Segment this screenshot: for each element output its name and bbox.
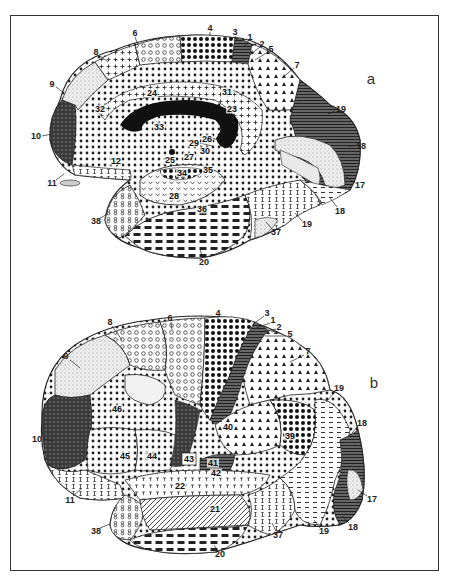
brodmann-area-label: 4 [207, 24, 212, 33]
brodmann-area-label: 1 [247, 33, 252, 42]
brodmann-area-label: 11 [47, 179, 57, 188]
brodmann-area-label: 39 [284, 432, 296, 441]
brodmann-area-label: 35 [202, 166, 214, 175]
brodmann-area-label: 18 [335, 207, 345, 216]
brodmann-area-label: 41 [207, 459, 219, 468]
brodmann-area-label: 6 [132, 29, 137, 38]
brodmann-area-label: 20 [215, 550, 225, 559]
brodmann-area-label: 17 [355, 181, 365, 190]
brodmann-area-label: 3 [232, 28, 237, 37]
brodmann-area-label: 4 [215, 309, 220, 318]
brodmann-area-label: 7 [294, 61, 299, 70]
brodmann-area-label: 33 [153, 123, 165, 132]
brodmann-area-label: 46 [111, 405, 123, 414]
brodmann-area-label: 19 [319, 527, 329, 536]
brodmann-area-label: 17 [367, 495, 377, 504]
brodmann-area-label: 43 [183, 455, 195, 464]
brodmann-area-label: 9 [63, 352, 68, 361]
brodmann-area-label: 23 [226, 105, 238, 114]
panel-b-lateral-view [41, 316, 367, 554]
brodmann-area-label: 34 [176, 169, 188, 178]
brodmann-area-label: 8 [107, 318, 112, 327]
brodmann-area-label: 18 [348, 523, 358, 532]
brodmann-area-label: 31 [221, 88, 233, 97]
brodmann-area-label: 27 [183, 153, 195, 162]
brodmann-area-label: 19 [302, 220, 312, 229]
brodmann-area-label: 38 [91, 217, 101, 226]
brodmann-area-label: 8 [93, 48, 98, 57]
brodmann-area-label: 25 [164, 156, 176, 165]
brodmann-area-label: 9 [49, 80, 54, 89]
brodmann-area-label: 37 [273, 531, 283, 540]
brodmann-area-label: 24 [146, 89, 158, 98]
brodmann-area-label: 18 [357, 419, 367, 428]
brodmann-area-label: 37 [271, 228, 281, 237]
brodmann-area-label: 26 [201, 135, 213, 144]
brodmann-area-label: 30 [199, 147, 211, 156]
brodmann-area-label: 19 [336, 105, 346, 114]
brodmann-area-label: 10 [32, 435, 42, 444]
brodmann-area-label: 7 [305, 347, 310, 356]
brodmann-area-label: 32 [94, 105, 106, 114]
brodmann-area-label: 38 [91, 527, 101, 536]
brodmann-area-label: 3 [264, 309, 269, 318]
panel-b-letter: b [370, 374, 378, 391]
brodmann-area-label: 5 [287, 330, 292, 339]
brodmann-area-label: 10 [31, 132, 41, 141]
brodmann-area-label: 28 [168, 192, 180, 201]
brodmann-area-label: 6 [167, 314, 172, 323]
brodmann-area-label: 40 [222, 423, 234, 432]
brodmann-area-label: 19 [334, 384, 344, 393]
brodmann-area-label: 2 [276, 323, 281, 332]
brodmann-area-label: 1 [270, 316, 275, 325]
brodmann-area-label: 44 [146, 452, 158, 461]
brodmann-area-label: 42 [210, 469, 222, 478]
brodmann-area-label: 5 [268, 45, 273, 54]
brodmann-area-label: 2 [259, 40, 264, 49]
brodmann-area-label: 22 [174, 482, 186, 491]
brodmann-area-label: 12 [110, 157, 122, 166]
panel-a-letter: a [367, 70, 375, 87]
brodmann-area-label: 20 [199, 258, 209, 267]
brodmann-area-label: 45 [119, 452, 131, 461]
brodmann-area-label: 18 [356, 142, 366, 151]
brodmann-area-label: 11 [65, 496, 75, 505]
brodmann-area-label: 21 [209, 505, 221, 514]
brodmann-area-label: 36 [196, 205, 208, 214]
